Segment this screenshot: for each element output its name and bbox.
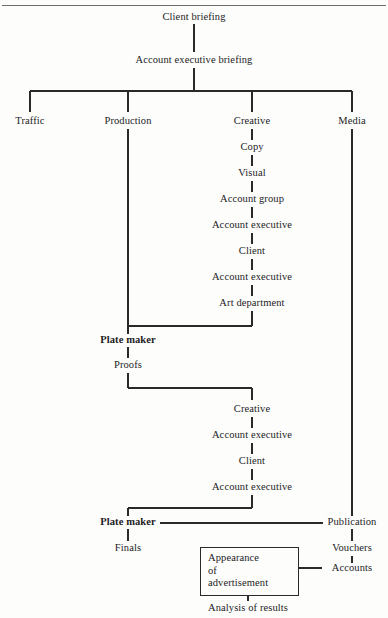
node-plate-maker-2: Plate maker <box>98 516 158 528</box>
node-account-group: Account group <box>218 193 286 205</box>
node-client-briefing: Client briefing <box>160 11 227 23</box>
node-vouchers: Vouchers <box>330 542 374 554</box>
appearance-line-2: of <box>208 565 292 578</box>
node-client-1: Client <box>237 245 267 257</box>
node-appearance-of-advertisement: Appearance of advertisement <box>200 547 299 596</box>
node-publication: Publication <box>326 516 379 528</box>
node-accounts: Accounts <box>330 562 374 574</box>
node-proofs: Proofs <box>112 359 144 371</box>
node-art-department: Art department <box>217 297 286 309</box>
node-copy: Copy <box>238 141 265 153</box>
node-account-executive-3: Account executive <box>210 429 294 441</box>
node-production: Production <box>102 115 153 127</box>
appearance-line-3: advertisement <box>208 577 292 590</box>
node-account-executive-1: Account executive <box>210 219 294 231</box>
node-account-executive-4: Account executive <box>210 481 294 493</box>
node-creative-2: Creative <box>232 403 272 415</box>
node-traffic: Traffic <box>13 115 46 127</box>
node-media: Media <box>336 115 367 127</box>
appearance-line-1: Appearance <box>208 552 292 565</box>
node-creative: Creative <box>232 115 272 127</box>
node-account-executive-2: Account executive <box>210 271 294 283</box>
node-account-executive-briefing: Account executive briefing <box>134 54 255 66</box>
node-client-2: Client <box>237 455 267 467</box>
node-plate-maker-1: Plate maker <box>98 334 158 346</box>
node-visual: Visual <box>236 167 267 179</box>
node-finals: Finals <box>113 542 143 554</box>
flowchart-canvas: Client briefing Account executive briefi… <box>0 0 388 618</box>
node-analysis-of-results: Analysis of results <box>206 602 290 614</box>
